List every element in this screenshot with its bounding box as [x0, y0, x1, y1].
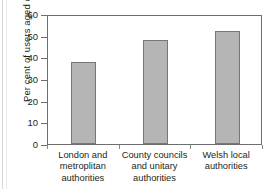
bar: [143, 40, 168, 144]
plot-area: [47, 15, 262, 145]
y-axis-tick-label: 40: [27, 51, 38, 64]
x-axis-category-label-line: County councils: [120, 150, 190, 161]
x-axis-category-labels: London andmetroplitanauthoritiesCounty c…: [47, 150, 262, 184]
y-axis-tick-label: 0: [33, 138, 38, 151]
y-axis-tick-label: 60: [27, 8, 38, 21]
page-edge-artifact: [2, 0, 3, 189]
bar-series: [48, 16, 261, 144]
y-axis-tick-label: 30: [27, 73, 38, 86]
x-axis-tick: [119, 145, 120, 149]
x-axis-category-label-line: Welsh local: [191, 150, 261, 161]
bar: [71, 62, 96, 144]
page-edge-artifact-secondary: [6, 0, 7, 189]
x-axis-tick: [47, 145, 48, 149]
x-axis-category-label-line: London and: [48, 150, 118, 161]
x-axis-tick: [190, 145, 191, 149]
y-axis-tick-label: 20: [27, 95, 38, 108]
y-axis-title-container: Per cent of users aged over 50: [8, 15, 22, 145]
x-axis-tick: [262, 145, 263, 149]
x-axis-category-label: County councilsand unitary authorities: [119, 150, 191, 184]
x-axis-category-label-line: authorities: [48, 173, 118, 184]
x-axis-category-label: London andmetroplitanauthorities: [47, 150, 119, 184]
x-axis-category-label-line: metroplitan: [48, 161, 118, 172]
y-axis-tick-label: 50: [27, 30, 38, 43]
bar: [215, 31, 240, 144]
x-axis-category-label: Welsh localauthorities: [190, 150, 262, 184]
bar-chart-figure: Per cent of users aged over 50 010203040…: [0, 0, 277, 189]
y-axis-tick-label: 10: [27, 116, 38, 129]
x-axis-category-label-line: and unitary authorities: [120, 161, 190, 184]
x-axis-category-label-line: authorities: [191, 161, 261, 172]
